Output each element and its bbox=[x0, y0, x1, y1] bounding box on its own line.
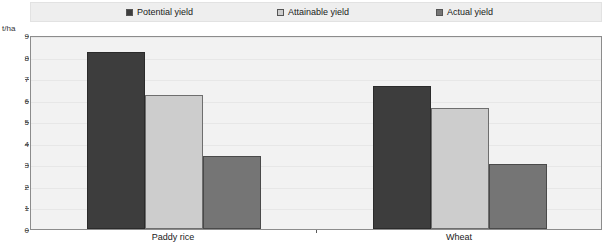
chart-figure: Potential yield Attainable yield Actual … bbox=[0, 0, 605, 252]
legend-item-potential-yield: Potential yield bbox=[126, 7, 193, 17]
bar-wheat-actual-yield bbox=[489, 164, 547, 229]
bar-paddy-rice-potential-yield bbox=[87, 52, 145, 229]
y-axis-tick-mark bbox=[25, 187, 29, 188]
gridline bbox=[31, 37, 601, 38]
legend-swatch-actual-yield-icon bbox=[436, 9, 443, 16]
y-axis-tick-mark bbox=[25, 36, 29, 37]
y-axis-tick-mark bbox=[25, 58, 29, 59]
legend-label-actual-yield: Actual yield bbox=[447, 7, 493, 17]
y-axis-tick-mark bbox=[25, 79, 29, 80]
y-axis-tick-mark bbox=[25, 208, 29, 209]
y-axis-tick-mark bbox=[25, 101, 29, 102]
legend-label-attainable-yield: Attainable yield bbox=[288, 7, 349, 17]
plot-area bbox=[30, 36, 602, 230]
x-axis-tick-mark bbox=[316, 230, 317, 233]
legend-swatch-potential-yield-icon bbox=[126, 9, 133, 16]
x-axis: Paddy riceWheat bbox=[30, 232, 602, 246]
y-axis-tick-mark bbox=[25, 122, 29, 123]
y-axis: 0123456789 bbox=[0, 36, 29, 230]
legend-item-attainable-yield: Attainable yield bbox=[277, 7, 349, 17]
legend-swatch-attainable-yield-icon bbox=[277, 9, 284, 16]
bar-paddy-rice-attainable-yield bbox=[145, 95, 203, 229]
y-axis-tick-mark bbox=[25, 230, 29, 231]
bar-wheat-potential-yield bbox=[373, 86, 431, 229]
bar-wheat-attainable-yield bbox=[431, 108, 489, 229]
x-axis-tick-label: Wheat bbox=[446, 232, 472, 242]
y-axis-tick-mark bbox=[25, 144, 29, 145]
legend-item-actual-yield: Actual yield bbox=[436, 7, 493, 17]
bar-paddy-rice-actual-yield bbox=[203, 156, 261, 229]
legend-label-potential-yield: Potential yield bbox=[137, 7, 193, 17]
x-axis-tick-label: Paddy rice bbox=[152, 232, 195, 242]
chart-legend: Potential yield Attainable yield Actual … bbox=[30, 2, 602, 22]
y-axis-tick-mark bbox=[25, 165, 29, 166]
